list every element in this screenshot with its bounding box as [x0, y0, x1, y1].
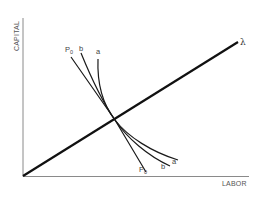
curve-label-b-bottom: b	[161, 162, 165, 171]
curve-p0	[71, 57, 146, 172]
x-axis-label: LABOR	[222, 180, 247, 187]
curve-label-p0-top: P0	[65, 45, 73, 55]
curve-label-p0-bottom: P0	[139, 165, 147, 175]
curve-label-b-top: b	[79, 44, 83, 53]
lambda-label: λ	[240, 37, 246, 47]
curve-label-a-bottom: a	[172, 157, 177, 166]
lambda-ray	[23, 42, 238, 176]
y-axis-label: CAPITAL	[13, 21, 20, 51]
curve-b	[81, 53, 170, 166]
isoquant-diagram: CAPITAL LABOR λ P0 b a a b P0	[0, 0, 266, 197]
curve-label-a-top: a	[96, 47, 101, 56]
